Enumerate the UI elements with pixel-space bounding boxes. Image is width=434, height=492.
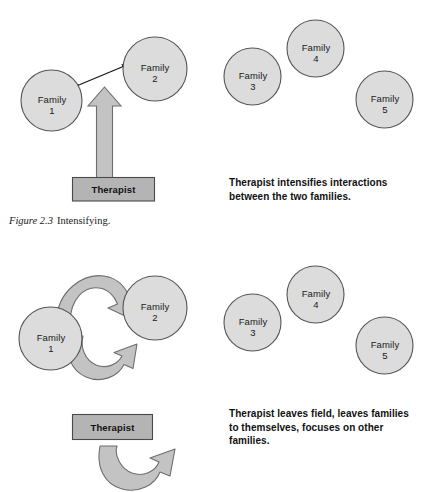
therapist-leaves-field-curved-arrow	[99, 446, 175, 490]
figure-caption-number: Figure 2.3	[9, 215, 53, 226]
figure-caption-title: Intensifying.	[53, 215, 110, 226]
leaving-field-diagram-canvas	[0, 246, 434, 492]
family-4-circle	[287, 20, 344, 77]
leaving-field-note: Therapist leaves field, leaves families …	[229, 407, 409, 448]
family1-family2-double-arrow	[80, 65, 128, 85]
therapist-box	[73, 178, 155, 202]
therapist-box	[73, 415, 153, 440]
intensifying-diagram-canvas	[0, 0, 434, 246]
family-4-circle	[287, 266, 344, 323]
therapist-intensify-block-arrow	[88, 87, 121, 178]
family-3-circle	[224, 294, 281, 351]
family-1-circle	[21, 70, 82, 131]
family-2-circle	[123, 37, 187, 101]
figure-caption: Figure 2.3Intensifying.	[9, 215, 110, 226]
family-5-circle	[356, 317, 413, 374]
family-5-circle	[356, 71, 413, 128]
intensifying-note: Therapist intensifies interactions betwe…	[229, 176, 401, 203]
figure-root: Family 1 Family 2 Family 3 Family 4 Fami…	[0, 0, 434, 492]
family-1-circle	[19, 307, 82, 370]
leaving-field-panel: Family 1 Family 2 Family 3 Family 4 Fami…	[0, 246, 434, 492]
family-3-circle	[224, 48, 281, 105]
intensifying-panel: Family 1 Family 2 Family 3 Family 4 Fami…	[0, 0, 434, 246]
family-2-circle	[123, 276, 187, 340]
